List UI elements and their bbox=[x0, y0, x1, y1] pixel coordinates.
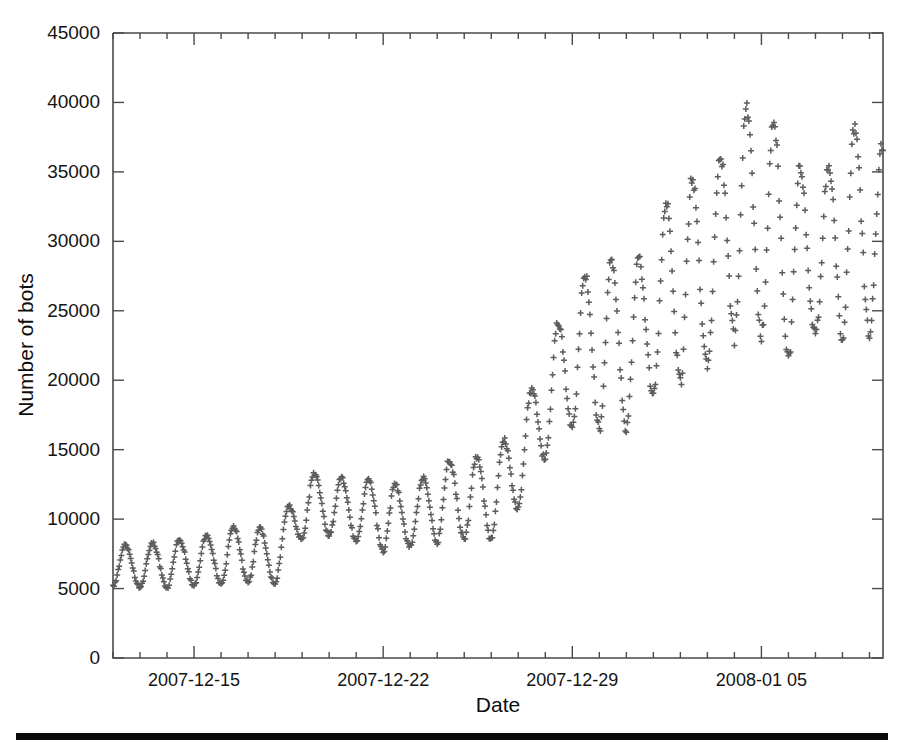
x-tick-label: 2007-12-29 bbox=[526, 670, 618, 690]
y-tick-label: 45000 bbox=[47, 22, 100, 43]
x-tick-label: 2008-01 05 bbox=[716, 670, 807, 690]
bottom-horizontal-rule bbox=[16, 733, 888, 740]
y-tick-label: 0 bbox=[89, 647, 100, 668]
y-tick-label: 25000 bbox=[47, 300, 100, 321]
bots-over-time-scatter-chart: 0500010000150002000025000300003500040000… bbox=[0, 0, 906, 756]
chart-background bbox=[0, 0, 906, 756]
x-tick-label: 2007-12-15 bbox=[148, 670, 240, 690]
x-tick-label: 2007-12-22 bbox=[337, 670, 429, 690]
x-axis-title: Date bbox=[476, 693, 520, 716]
y-tick-label: 15000 bbox=[47, 439, 100, 460]
y-axis-title: Number of bots bbox=[14, 273, 37, 417]
y-tick-label: 30000 bbox=[47, 230, 100, 251]
y-tick-label: 10000 bbox=[47, 508, 100, 529]
y-tick-label: 35000 bbox=[47, 161, 100, 182]
y-tick-label: 40000 bbox=[47, 91, 100, 112]
figure-container: 0500010000150002000025000300003500040000… bbox=[0, 0, 906, 756]
y-tick-label: 5000 bbox=[58, 578, 100, 599]
y-tick-label: 20000 bbox=[47, 369, 100, 390]
